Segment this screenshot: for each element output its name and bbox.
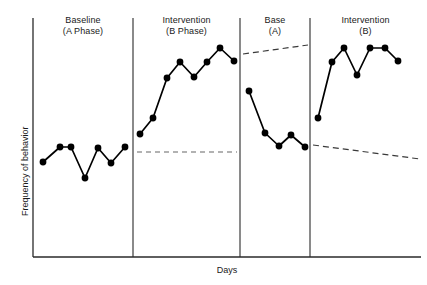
data-point [395,58,402,65]
data-line-b2 [318,48,398,118]
data-point [341,45,348,52]
data-point [367,45,374,52]
phase-label-baseline-a: Baseline (A Phase) [33,15,133,37]
data-point [177,59,184,66]
data-point [150,115,157,122]
phase-label-line2: (B) [310,26,421,37]
data-point [40,159,47,166]
data-point [246,88,253,95]
phase-label-line1: Base [240,15,310,26]
data-point [137,131,144,138]
series-phase-b2 [315,45,402,122]
data-point [108,160,115,167]
data-point [382,45,389,52]
chart-figure: Baseline (A Phase) Intervention (B Phase… [0,0,427,285]
data-line-a2 [249,91,305,147]
phase-label-base-a: Base (A) [240,15,310,37]
series-phase-a1 [40,144,129,182]
data-point [68,144,75,151]
data-point [231,58,238,65]
data-point [217,45,224,52]
data-point [95,145,102,152]
data-point [82,175,89,182]
data-point [354,72,361,79]
y-axis-title: Frequency of behavior [20,126,30,216]
phase-label-line1: Intervention [310,15,421,26]
data-point [302,144,309,151]
data-point [262,130,269,137]
trend-line-a2-rising [243,45,308,54]
phase-label-intervention-b: Intervention (B Phase) [133,15,240,37]
data-point [204,59,211,66]
data-point [122,144,129,151]
chart-canvas [0,0,427,285]
series-phase-a2 [246,88,309,151]
data-point [164,75,171,82]
trend-line-b2-declining [313,145,420,159]
phase-label-line2: (A) [240,26,310,37]
phase-label-intervention-b2: Intervention (B) [310,15,421,37]
x-axis-title: Days [33,265,421,275]
phase-label-line2: (A Phase) [33,26,133,37]
series-phase-b1 [137,45,238,138]
phase-label-line1: Intervention [133,15,240,26]
data-point [329,59,336,66]
data-point [288,132,295,139]
data-point [191,74,198,81]
phase-label-line1: Baseline [33,15,133,26]
data-point [315,115,322,122]
data-point [57,144,64,151]
data-point [276,143,283,150]
phase-label-line2: (B Phase) [133,26,240,37]
